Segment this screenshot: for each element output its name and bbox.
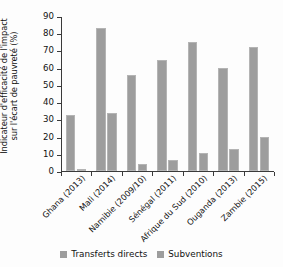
- bar: [138, 164, 148, 171]
- y-tick-label: 70: [43, 45, 54, 56]
- bar: [249, 47, 259, 171]
- y-tick: 40: [57, 103, 61, 104]
- y-axis-title-line1: Indicateur d'efficacité de l'impact: [0, 18, 9, 154]
- chart-legend: Transferts directsSubventions: [0, 249, 283, 259]
- plot-area: 0102030405060708090: [61, 17, 274, 172]
- y-tick-label: 40: [43, 97, 54, 108]
- y-tick-label: 10: [43, 149, 54, 160]
- y-tick-label: 60: [43, 63, 54, 74]
- y-tick-label: 30: [43, 114, 54, 125]
- y-axis-title-line2: sur l'écart de pauvreté (%): [10, 0, 20, 172]
- legend-swatch: [60, 251, 67, 258]
- y-tick-label: 20: [43, 132, 54, 143]
- y-tick: 10: [57, 155, 61, 156]
- legend-item[interactable]: Transferts directs: [60, 249, 147, 259]
- legend-swatch: [157, 251, 164, 258]
- bar: [218, 68, 228, 171]
- bar: [168, 160, 178, 171]
- bar: [229, 149, 239, 171]
- y-tick-label: 90: [43, 11, 54, 22]
- y-tick: 30: [57, 120, 61, 121]
- bar: [77, 169, 87, 171]
- legend-item[interactable]: Subventions: [157, 249, 222, 259]
- y-tick-label: 0: [49, 166, 54, 177]
- bar: [127, 75, 137, 171]
- bar: [188, 42, 198, 171]
- y-tick: 20: [57, 138, 61, 139]
- x-axis-line: [61, 171, 274, 172]
- y-tick: 80: [57, 34, 61, 35]
- legend-label: Transferts directs: [71, 249, 147, 259]
- bar: [96, 28, 106, 171]
- y-tick-label: 50: [43, 80, 54, 91]
- y-tick: 70: [57, 51, 61, 52]
- y-axis-line: [61, 17, 62, 172]
- y-tick-label: 80: [43, 28, 54, 39]
- bar: [66, 115, 76, 171]
- legend-label: Subventions: [168, 249, 222, 259]
- bar: [260, 137, 270, 171]
- bar-chart: Indicateur d'efficacité de l'impact sur …: [0, 0, 283, 267]
- bar: [157, 60, 167, 171]
- y-tick: 90: [57, 17, 61, 18]
- bar: [199, 153, 209, 171]
- y-axis-title: Indicateur d'efficacité de l'impact sur …: [0, 0, 34, 190]
- x-tick-label: Ghana (2013): [40, 173, 87, 220]
- x-axis-labels: Ghana (2013)Mali (2014)Namibie (2009/10)…: [61, 173, 283, 243]
- y-tick: 50: [57, 86, 61, 87]
- y-tick: 60: [57, 69, 61, 70]
- bar: [107, 113, 117, 171]
